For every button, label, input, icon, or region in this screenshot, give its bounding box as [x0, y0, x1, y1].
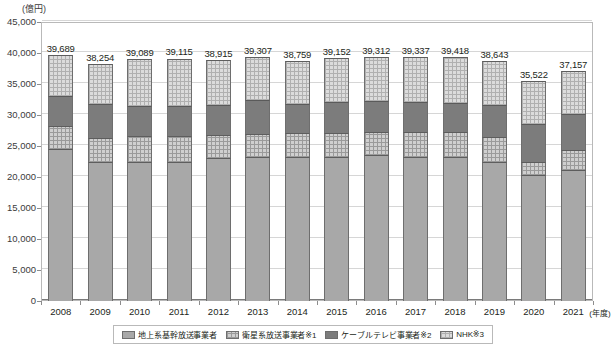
- bar-segment[interactable]: [206, 158, 231, 301]
- bar-segment[interactable]: [443, 157, 468, 301]
- bar-segment[interactable]: [167, 106, 192, 136]
- bar-segment[interactable]: [521, 162, 546, 175]
- x-axis-tick-label: 2015: [317, 306, 357, 317]
- x-axis-tick-mark: [396, 301, 397, 305]
- bar-segment[interactable]: [521, 175, 546, 301]
- bar-segment[interactable]: [364, 57, 389, 101]
- legend-swatch: [325, 331, 338, 339]
- bar-segment[interactable]: [482, 137, 507, 162]
- bar-segment[interactable]: [561, 71, 586, 115]
- bar-segment[interactable]: [245, 57, 270, 100]
- bar-segment[interactable]: [403, 57, 428, 102]
- bar-segment[interactable]: [285, 104, 310, 134]
- bar-segment[interactable]: [88, 162, 113, 301]
- legend-swatch: [440, 331, 453, 339]
- bar-segment[interactable]: [482, 61, 507, 105]
- x-axis-tick-label: 2014: [277, 306, 317, 317]
- bar-segment[interactable]: [167, 162, 192, 301]
- bar-stack[interactable]: [364, 57, 389, 301]
- bar-segment[interactable]: [561, 170, 586, 301]
- bar-segment[interactable]: [48, 96, 73, 125]
- bar-segment[interactable]: [167, 136, 192, 162]
- x-axis-tick-label: 2016: [356, 306, 396, 317]
- bar-stack[interactable]: [48, 55, 73, 301]
- bar-segment[interactable]: [364, 132, 389, 154]
- bar-segment[interactable]: [245, 157, 270, 301]
- bar-segment[interactable]: [88, 138, 113, 162]
- bar-segment[interactable]: [88, 64, 113, 105]
- bar-segment[interactable]: [403, 102, 428, 132]
- bar-segment[interactable]: [206, 135, 231, 158]
- legend-label: 衛星系放送事業者※1: [242, 329, 316, 340]
- bar-segment[interactable]: [88, 104, 113, 137]
- bar-segment[interactable]: [48, 55, 73, 96]
- bar-stack[interactable]: [285, 61, 310, 301]
- bar-segment[interactable]: [521, 124, 546, 162]
- bar-segment[interactable]: [285, 157, 310, 301]
- bar-segment[interactable]: [127, 106, 152, 136]
- bar-segment[interactable]: [561, 150, 586, 170]
- bar-stack[interactable]: [88, 64, 113, 301]
- bar-segment[interactable]: [324, 157, 349, 301]
- legend-item[interactable]: ケーブルテレビ事業者※2: [325, 329, 431, 340]
- y-axis-tick-label: 40,000: [0, 47, 36, 58]
- bar-total-label: 37,157: [550, 59, 596, 70]
- bar-stack[interactable]: [403, 57, 428, 301]
- bar-segment[interactable]: [48, 149, 73, 301]
- chart-legend: 地上系基幹放送事業者衛星系放送事業者※1ケーブルテレビ事業者※2NHK※3: [113, 325, 493, 344]
- bar-segment[interactable]: [48, 126, 73, 150]
- bar-segment[interactable]: [443, 132, 468, 156]
- bar-segment[interactable]: [482, 162, 507, 301]
- bar-total-label: 35,522: [511, 69, 557, 80]
- legend-label: 地上系基幹放送事業者: [138, 329, 217, 340]
- bar-segment[interactable]: [482, 105, 507, 137]
- bar-stack[interactable]: [127, 59, 152, 301]
- legend-item[interactable]: 地上系基幹放送事業者: [122, 329, 217, 340]
- bar-stack[interactable]: [206, 60, 231, 301]
- bar-segment[interactable]: [127, 59, 152, 106]
- bar-segment[interactable]: [521, 81, 546, 125]
- bar-segment[interactable]: [127, 136, 152, 162]
- bar-segment[interactable]: [245, 100, 270, 133]
- bar-segment[interactable]: [285, 61, 310, 104]
- bar-segment[interactable]: [364, 101, 389, 132]
- bar-segment[interactable]: [324, 102, 349, 132]
- x-axis-tick-mark: [238, 301, 239, 305]
- bar-segment[interactable]: [364, 155, 389, 301]
- x-axis-tick-mark: [41, 301, 42, 305]
- x-axis-tick-label: 2010: [120, 306, 160, 317]
- y-axis-tick-label: 0: [0, 295, 36, 306]
- y-axis-tick-label: 15,000: [0, 202, 36, 213]
- bar-stack[interactable]: [324, 58, 349, 301]
- bar-segment[interactable]: [403, 157, 428, 301]
- bar-segment[interactable]: [324, 58, 349, 102]
- bar-stack[interactable]: [167, 59, 192, 301]
- bar-segment[interactable]: [403, 132, 428, 156]
- legend-item[interactable]: NHK※3: [440, 330, 484, 339]
- legend-item[interactable]: 衛星系放送事業者※1: [226, 329, 316, 340]
- x-axis-tick-mark: [514, 301, 515, 305]
- bar-total-label: 38,643: [471, 49, 517, 60]
- bar-stack[interactable]: [245, 57, 270, 301]
- bar-segment[interactable]: [324, 133, 349, 157]
- bar-segment[interactable]: [245, 134, 270, 157]
- x-axis-tick-label: 2012: [198, 306, 238, 317]
- bar-segment[interactable]: [206, 105, 231, 135]
- bar-segment[interactable]: [127, 162, 152, 301]
- bar-segment[interactable]: [285, 133, 310, 157]
- gridline: [42, 20, 592, 21]
- bar-segment[interactable]: [443, 57, 468, 104]
- x-axis-tick-label: 2017: [396, 306, 436, 317]
- bar-stack[interactable]: [443, 57, 468, 301]
- bar-stack[interactable]: [482, 61, 507, 301]
- x-axis-tick-mark: [356, 301, 357, 305]
- bar-stack[interactable]: [521, 81, 546, 301]
- bar-segment[interactable]: [443, 103, 468, 132]
- bar-segment[interactable]: [206, 60, 231, 105]
- x-axis-tick-mark: [317, 301, 318, 305]
- bar-segment[interactable]: [167, 59, 192, 107]
- bar-stack[interactable]: [561, 71, 586, 301]
- x-axis-tick-label: 2019: [474, 306, 514, 317]
- bar-segment[interactable]: [561, 114, 586, 149]
